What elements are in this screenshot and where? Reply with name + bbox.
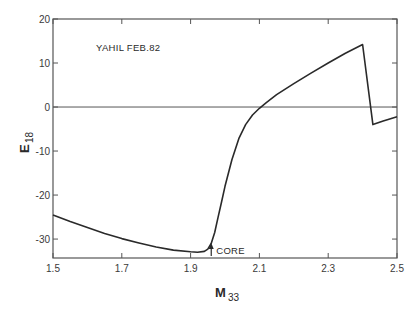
x-axis-label-subscript: 33 [228,292,240,303]
plot-frame [53,19,397,258]
core-label: CORE [216,245,245,256]
y-tick-label: -20 [36,190,51,201]
x-tick-label: 1.5 [46,263,60,274]
x-tick-label: 1.9 [184,263,198,274]
y-axis-title: E 18 [17,131,35,153]
x-tick-label: 2.5 [390,263,404,274]
y-tick-label: 20 [39,14,51,25]
chart-canvas: 1.51.71.92.12.32.5 20100-10-20-30 YAHIL … [0,0,416,313]
x-tick-label: 2.3 [321,263,335,274]
chart-annotation: YAHIL FEB.82 [96,42,160,53]
core-marker: CORE [209,243,245,256]
y-tick-label: -10 [36,146,51,157]
x-axis-label: M [215,285,226,300]
y-tick-label: -30 [36,234,51,245]
x-axis-title: M 33 [215,285,240,303]
y-axis-label-subscript: 18 [24,131,35,143]
y-axis-label: E [17,144,32,153]
y-axis-ticks: 20100-10-20-30 [36,14,397,245]
x-axis-ticks: 1.51.71.92.12.32.5 [46,19,404,274]
x-tick-label: 1.7 [115,263,129,274]
y-tick-label: 10 [39,58,51,69]
plot-border [53,19,397,258]
x-tick-label: 2.1 [252,263,266,274]
data-series-line [53,45,397,253]
y-tick-label: 0 [44,102,50,113]
